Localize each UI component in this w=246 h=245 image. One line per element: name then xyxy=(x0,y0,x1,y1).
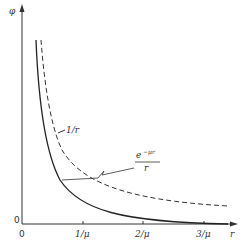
x-tick-label-2: 2/μ xyxy=(134,229,150,239)
y-origin-label: 0 xyxy=(14,215,20,225)
leader-yukawa xyxy=(62,168,134,180)
x-axis-arrow-icon xyxy=(230,222,238,227)
x-origin-label: 0 xyxy=(19,229,25,239)
x-axis-label: r xyxy=(230,229,235,239)
y-axis-label: φ xyxy=(9,6,16,16)
y-axis-arrow-icon xyxy=(20,4,25,12)
label-yukawa-num: e xyxy=(136,150,141,160)
x-tick-label-1: 1/μ xyxy=(75,229,90,239)
leader-inverse-r xyxy=(58,130,65,133)
label-inverse-r: 1/r xyxy=(66,125,80,135)
chart: φ 0 0 1/μ 2/μ 3/μ r 1/r e −μr r xyxy=(0,0,246,245)
curve-inverse-r xyxy=(41,40,228,206)
label-yukawa-exp: −μr xyxy=(143,148,156,156)
curve-yukawa xyxy=(36,40,228,224)
x-tick-label-3: 3/μ xyxy=(196,229,211,239)
label-yukawa-den: r xyxy=(144,163,149,173)
